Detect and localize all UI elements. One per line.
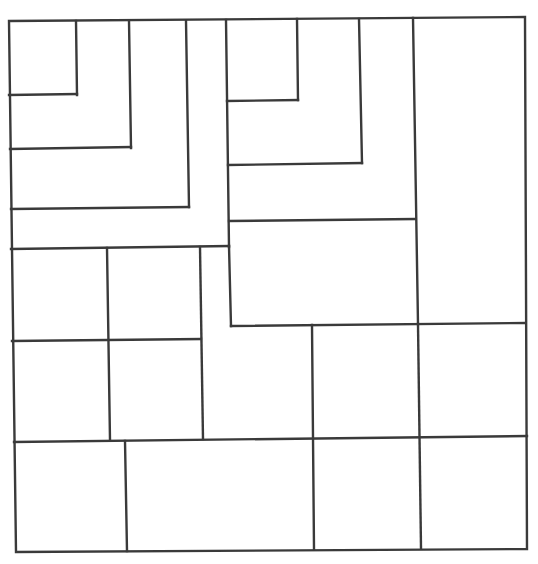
segment-tl-band4-bottom <box>11 246 229 249</box>
segment-mid-block-left <box>229 246 231 326</box>
segment-mid-col-4 <box>418 324 421 548</box>
segment-tl-band2-right <box>129 21 131 148</box>
segment-group <box>9 18 527 551</box>
segment-mid-row-1 <box>12 339 201 341</box>
segment-tl-band4-right <box>226 20 229 247</box>
segment-mid-col-2 <box>200 247 203 439</box>
segment-tr-inner-bottom <box>227 100 298 101</box>
segment-low-row <box>14 436 527 442</box>
segment-tl-inner-right <box>76 21 77 95</box>
segment-tl-band2-bottom <box>10 147 131 149</box>
outer-frame <box>9 17 527 552</box>
segment-tr-band3-bottom <box>229 219 415 221</box>
segment-bottom-col-1 <box>125 441 127 551</box>
segment-mid-col-1 <box>107 248 110 440</box>
diagram-svg <box>0 0 538 564</box>
rectangle-dissection-diagram <box>0 0 538 564</box>
segment-tl-band3-bottom <box>11 207 189 209</box>
segment-tr-inner-right <box>297 19 298 100</box>
segment-mid-col-3 <box>312 325 314 549</box>
segment-mid-block-bottom <box>231 323 525 326</box>
segment-tr-band2-bottom <box>228 163 362 165</box>
segment-tl-band3-right <box>186 21 189 207</box>
segment-tr-column-left <box>413 18 418 324</box>
segment-tr-band2-right <box>359 19 362 163</box>
segment-tl-inner-bottom <box>9 94 77 95</box>
